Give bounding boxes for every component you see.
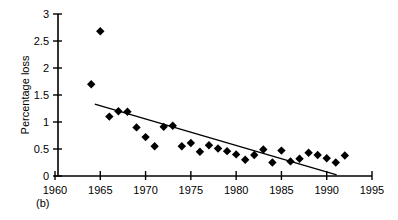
x-axis-group: 19601965197019751980198519901995 xyxy=(43,171,384,196)
data-point-marker xyxy=(178,142,186,150)
y-tick-labels: 00.511.522.53 xyxy=(34,8,49,182)
x-tick-label: 1995 xyxy=(360,184,384,196)
x-tick-label: 1960 xyxy=(43,184,67,196)
data-point-marker xyxy=(304,149,312,157)
trend-line xyxy=(95,104,337,175)
figure-panel-b: 00.511.522.53 Percentage loss 1960196519… xyxy=(0,0,398,220)
y-tick-label: 1.5 xyxy=(34,89,49,101)
data-point-marker xyxy=(132,123,140,131)
y-axis-title: Percentage loss xyxy=(19,55,31,134)
data-point-marker xyxy=(150,142,158,150)
data-point-marker xyxy=(141,133,149,141)
data-point-marker xyxy=(313,151,321,159)
data-point-marker xyxy=(187,139,195,147)
data-point-marker xyxy=(323,154,331,162)
data-point-marker xyxy=(277,146,285,154)
data-point-marker xyxy=(332,158,340,166)
data-point-marker xyxy=(87,80,95,88)
data-point-marker xyxy=(232,150,240,158)
data-point-marker xyxy=(268,158,276,166)
scatter-plot: 00.511.522.53 Percentage loss 1960196519… xyxy=(0,0,398,220)
data-point-marker xyxy=(341,151,349,159)
y-tick-label: 1 xyxy=(43,116,49,128)
y-axis-group: 00.511.522.53 Percentage loss xyxy=(19,8,62,182)
x-tick-label: 1980 xyxy=(224,184,248,196)
data-point-marker xyxy=(196,148,204,156)
data-point-marker xyxy=(205,141,213,149)
x-tick-label: 1965 xyxy=(88,184,112,196)
y-tick-label: 3 xyxy=(43,8,49,20)
y-tick-label: 0 xyxy=(43,170,49,182)
x-tick-labels: 19601965197019751980198519901995 xyxy=(43,184,384,196)
data-point-marker xyxy=(295,155,303,163)
x-tick-label: 1985 xyxy=(269,184,293,196)
data-point-series xyxy=(87,27,349,167)
data-point-marker xyxy=(214,144,222,152)
panel-label: (b) xyxy=(36,197,49,209)
y-tick-label: 0.5 xyxy=(34,143,49,155)
y-tick-label: 2 xyxy=(43,62,49,74)
x-tick-label: 1970 xyxy=(133,184,157,196)
data-point-marker xyxy=(241,156,249,164)
data-point-marker xyxy=(223,147,231,155)
x-tick-label: 1990 xyxy=(314,184,338,196)
y-tick-label: 2.5 xyxy=(34,35,49,47)
data-point-marker xyxy=(105,112,113,120)
data-point-marker xyxy=(96,27,104,35)
x-tick-label: 1975 xyxy=(179,184,203,196)
